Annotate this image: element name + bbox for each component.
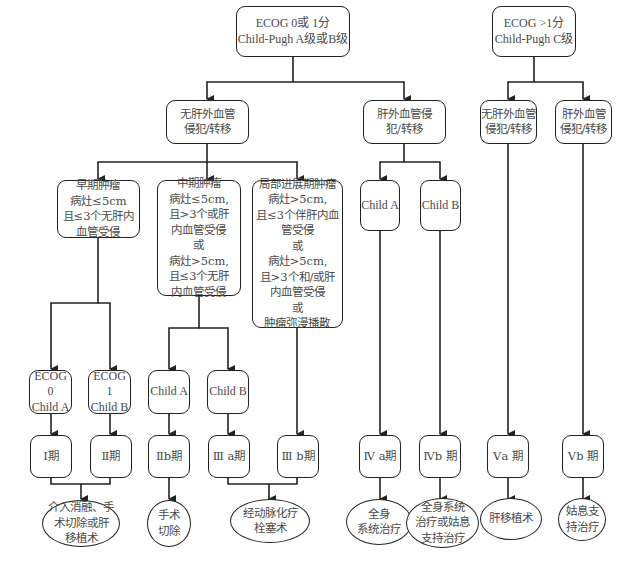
node-ecog1-child-b: ECOG 1 Child B [88, 370, 131, 414]
node-early-tumor: 早期肿瘤 病灶≤5cm 且≤3个无肝内 血管受侵 [57, 180, 140, 238]
node-label: ECOG >1分 Child-Pugh C级 [495, 16, 573, 47]
node-label: 中期肿瘤 病灶≤5cm, 且>3个或肝 内血管受侵 或 病灶>5cm, 且≤3个… [169, 176, 230, 300]
node-label: 全身 系统治疗 [357, 507, 401, 538]
node-extrahepatic-invasion-left: 肝外血管侵 犯/转移 [363, 100, 446, 144]
node-label: Child B [422, 198, 460, 214]
node-stage-ii: Ⅱ期 [90, 435, 132, 478]
node-label: 无肝外血管 侵犯/转移 [180, 107, 235, 138]
node-label: Ⅳb 期 [423, 449, 457, 465]
node-label: 肝移植术 [489, 511, 533, 527]
node-stage-iib: Ⅱb期 [148, 435, 190, 478]
node-treatment-ablation-resection-transplant: 介入消融、手 术切除或肝 移植术 [42, 500, 120, 547]
node-stage-iiib: Ⅲ b期 [277, 435, 319, 478]
node-stage-ivb: Ⅳb 期 [419, 435, 461, 478]
node-child-a-extrahepatic: Child A [360, 180, 400, 231]
node-label: ECOG 0或 1分 Child-Pugh A级或B级 [238, 16, 348, 47]
node-locally-advanced-tumor: 局部进展期肿瘤 病灶>5cm, 且≤3个伴肝内血 管受侵 或 病灶>5cm, 且… [252, 180, 343, 328]
node-label: Child A [150, 384, 188, 400]
node-stage-va: Ⅴa 期 [487, 435, 529, 478]
node-label: Ⅴb 期 [568, 449, 598, 465]
node-label: 手术 切除 [158, 508, 180, 539]
node-label: 无肝外血管 侵犯/转移 [481, 107, 536, 138]
node-child-b-intermediate: Child B [207, 370, 249, 414]
node-treatment-liver-transplant: 肝移植术 [480, 498, 542, 540]
node-label: Ⅲ b期 [281, 449, 314, 465]
node-extrahepatic-invasion-right: 肝外血管 侵犯/转移 [555, 100, 612, 144]
node-label: 局部进展期肿瘤 病灶>5cm, 且≤3个伴肝内血 管受侵 或 病灶>5cm, 且… [256, 177, 339, 332]
node-label: Child B [209, 384, 247, 400]
node-stage-vb: Ⅴb 期 [562, 435, 604, 478]
node-label: Ⅳ a期 [363, 449, 396, 465]
node-no-extrahepatic-invasion-right: 无肝外血管 侵犯/转移 [480, 100, 537, 144]
node-label: Ⅴa 期 [493, 449, 523, 465]
node-label: 姑息支 持治疗 [566, 504, 599, 535]
node-treatment-tace: 经动脉化疗 栓塞术 [230, 499, 310, 543]
node-stage-i: Ⅰ期 [30, 435, 72, 478]
node-treatment-palliative-support: 姑息支 持治疗 [558, 498, 606, 541]
node-stage-iiia: Ⅲ a期 [208, 435, 250, 478]
node-ecog0-child-a: ECOG 0 Child A [29, 370, 72, 414]
node-child-b-extrahepatic: Child B [420, 180, 461, 231]
node-no-extrahepatic-invasion-left: 无肝外血管 侵犯/转移 [166, 100, 249, 144]
node-stage-iva: Ⅳ a期 [359, 435, 401, 478]
node-label: Ⅱb期 [156, 449, 182, 465]
node-label: ECOG 1 Child B [89, 369, 130, 416]
node-child-a-intermediate: Child A [148, 370, 190, 414]
node-label: 介入消融、手 术切除或肝 移植术 [48, 500, 114, 547]
node-label: 经动脉化疗 栓塞术 [243, 506, 298, 537]
node-label: Ⅱ期 [102, 449, 121, 465]
node-label: 肝外血管侵 犯/转移 [377, 107, 432, 138]
node-ecog-0-1-child-pugh-ab: ECOG 0或 1分 Child-Pugh A级或B级 [236, 6, 350, 57]
node-intermediate-tumor: 中期肿瘤 病灶≤5cm, 且>3个或肝 内血管受侵 或 病灶>5cm, 且≤3个… [157, 180, 241, 296]
node-label: Ⅰ期 [43, 449, 59, 465]
node-label: Ⅲ a期 [213, 449, 246, 465]
node-label: ECOG 0 Child A [30, 369, 71, 416]
node-label: 全身系统 治疗或姑息 支持治疗 [415, 500, 470, 547]
node-label: 肝外血管 侵犯/转移 [560, 107, 608, 138]
node-treatment-systemic-or-palliative: 全身系统 治疗或姑息 支持治疗 [406, 498, 479, 548]
node-ecog-gt1-child-pugh-c: ECOG >1分 Child-Pugh C级 [492, 6, 576, 57]
node-treatment-surgical-resection: 手术 切除 [147, 500, 191, 547]
node-label: Child A [361, 198, 399, 214]
node-label: 早期肿瘤 病灶≤5cm 且≤3个无肝内 血管受侵 [63, 178, 135, 240]
node-treatment-systemic: 全身 系统治疗 [346, 499, 412, 545]
